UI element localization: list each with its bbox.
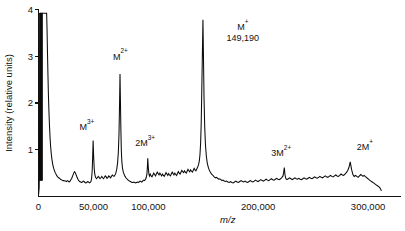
x-tick-label: 300,000 — [351, 201, 385, 212]
saturated-peak — [39, 13, 42, 180]
y-tick-label: 4 — [28, 4, 33, 15]
x-tick-label: 200,000 — [241, 201, 275, 212]
mass-spectrum-figure: 1234 050,000100,000200,000300,000 M3+M2+… — [0, 0, 405, 231]
x-tick-label: 0 — [36, 201, 41, 212]
peak-label-m2plus: M2+ — [113, 47, 128, 62]
x-tick-label: 100,000 — [131, 201, 165, 212]
spectrum-trace — [39, 13, 382, 195]
peak-label-2mplus: 2M+ — [357, 138, 374, 153]
mass-spectrum-chart: 1234 050,000100,000200,000300,000 M3+M2+… — [0, 0, 405, 231]
peak-label-mplus: M+ — [237, 17, 249, 32]
y-axis-title: Intensity (relative units) — [3, 54, 14, 152]
peak-label-3m2plus: 3M2+ — [271, 144, 291, 159]
peak-label-2m3plus: 2M3+ — [135, 133, 155, 148]
peak-label-m3plus: M3+ — [79, 117, 94, 132]
x-tick-labels: 050,000100,000200,000300,000 — [36, 201, 385, 212]
y-tick-label: 2 — [28, 97, 33, 108]
x-tick-label: 50,000 — [79, 201, 108, 212]
chart-axes — [39, 10, 402, 197]
x-axis-title: m/z — [220, 214, 236, 225]
y-tick-labels: 1234 — [28, 4, 33, 155]
y-tick-label: 1 — [28, 144, 33, 155]
peak-mass-mplus: 149,190 — [227, 33, 260, 43]
peak-annotations: M3+M2+2M3+M+149,1903M2+2M+ — [79, 17, 373, 158]
y-tick-label: 3 — [28, 51, 33, 62]
